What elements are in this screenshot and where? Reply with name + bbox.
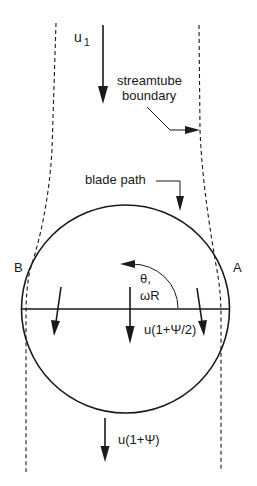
streamtube-leader-arrow <box>147 107 200 134</box>
rotation-omega-label: ωR <box>140 288 160 303</box>
inflow-arrow <box>98 25 108 104</box>
streamtube-label-line1: streamtube <box>117 73 182 88</box>
rotation-theta-label: θ, <box>140 271 151 286</box>
wake-velocity-label: u(1+Ψ) <box>118 432 160 447</box>
disk-arrow-left <box>51 287 61 336</box>
blade-path-leader-arrow <box>156 181 184 211</box>
wake-arrow <box>101 418 110 462</box>
disk-arrow-right <box>197 288 207 336</box>
point-a-label: A <box>233 260 242 275</box>
streamtube-diagram: u1 streamtube boundary blade path B A θ,… <box>0 0 257 486</box>
point-b-label: B <box>14 260 23 275</box>
blade-path-label: blade path <box>85 172 146 187</box>
disk-velocity-label: u(1+Ψ/2) <box>144 322 196 337</box>
streamtube-label-line2: boundary <box>122 88 177 103</box>
disk-arrow-center <box>126 287 135 344</box>
inflow-velocity-label: u1 <box>74 29 90 48</box>
